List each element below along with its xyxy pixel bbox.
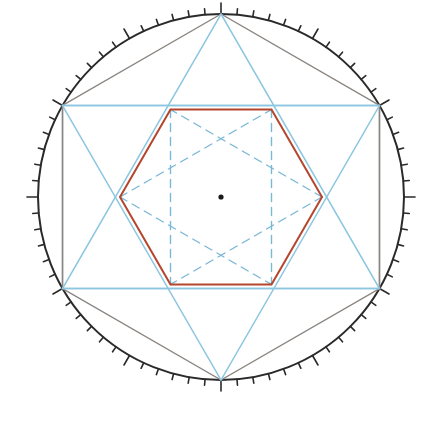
dashed-diagonal: [171, 110, 323, 197]
major-tick: [379, 100, 389, 106]
center-point: [218, 194, 223, 199]
major-tick: [313, 29, 319, 39]
major-tick: [124, 29, 130, 39]
major-tick: [313, 355, 319, 365]
major-tick: [53, 100, 63, 106]
dashed-diagonal: [120, 197, 272, 284]
triangle-down: [63, 106, 380, 381]
major-tick: [379, 289, 389, 295]
geometric-diagram: [0, 0, 423, 445]
dashed-diagonal: [120, 110, 272, 197]
major-tick: [124, 355, 130, 365]
major-tick: [53, 289, 63, 295]
dashed-diagonal: [171, 197, 323, 284]
triangle-up: [63, 14, 380, 289]
